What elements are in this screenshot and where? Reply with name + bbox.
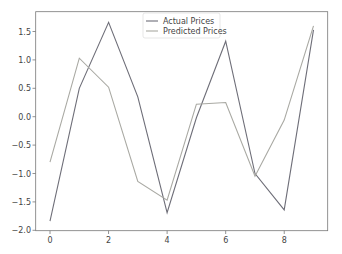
x-tick-label: 4 [165, 236, 170, 245]
y-tick-label: 1.0 [18, 56, 31, 65]
x-tick-label: 0 [47, 236, 52, 245]
legend-label: Predicted Prices [163, 27, 227, 36]
y-tick-label: −2.0 [12, 226, 31, 235]
x-tick-label: 2 [106, 236, 111, 245]
y-tick-label: −1.0 [12, 170, 31, 179]
y-tick-label: −1.5 [12, 198, 31, 207]
line-chart: −2.0−1.5−1.0−0.50.00.51.01.5 02468 Actua… [0, 0, 342, 254]
x-tick-label: 6 [223, 236, 228, 245]
x-tick-label: 8 [282, 236, 287, 245]
y-tick-label: 1.5 [18, 28, 31, 37]
x-axis-ticks: 02468 [47, 231, 286, 245]
y-tick-label: 0.5 [18, 84, 31, 93]
legend: Actual PricesPredicted Prices [143, 13, 227, 38]
y-tick-label: −0.5 [12, 141, 31, 150]
legend-label: Actual Prices [163, 17, 214, 26]
y-tick-label: 0.0 [18, 113, 31, 122]
y-axis-ticks: −2.0−1.5−1.0−0.50.00.51.01.5 [12, 28, 36, 236]
